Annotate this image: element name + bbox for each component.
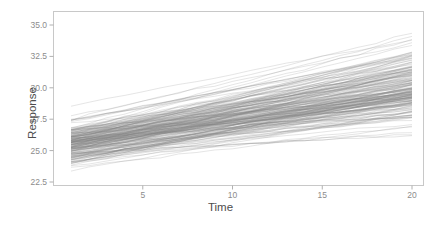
x-axis-tick-label: 20	[407, 191, 416, 200]
x-axis-tick-label: 5	[140, 191, 145, 200]
chart-figure: 22.525.027.530.032.535.0 5101520 Respons…	[0, 0, 441, 225]
y-axis-tick-label: 35.0	[14, 21, 47, 30]
x-axis-tick-label: 15	[318, 191, 327, 200]
x-axis-title: Time	[0, 201, 441, 213]
y-axis-tick-label: 25.0	[14, 146, 47, 155]
y-axis-tick-label: 22.5	[14, 178, 47, 187]
y-axis-title: Response	[26, 87, 38, 139]
y-axis-tick-label: 32.5	[14, 52, 47, 61]
x-axis-tick-label: 10	[228, 191, 237, 200]
spaghetti-plot-canvas	[0, 0, 441, 225]
